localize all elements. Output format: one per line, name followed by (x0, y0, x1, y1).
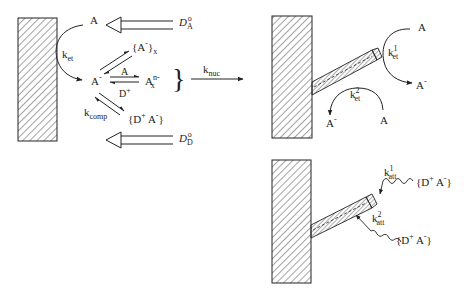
diffusion-coef-D: DDo (179, 133, 192, 144)
bottom-A-label: A (380, 115, 388, 126)
k-comp-label: kcomp (84, 107, 107, 118)
k-et-label: ket (62, 49, 73, 60)
brace: } (172, 65, 185, 93)
growing-fiber-bottom (311, 194, 377, 238)
complex-2-label: {D+ A-} (396, 235, 432, 246)
k-nuc-label: knuc (203, 64, 220, 75)
electrode-surface-left (18, 18, 57, 141)
bottom-A-minus-label: A- (326, 118, 337, 129)
electrode-surface-bottom-right (272, 160, 311, 283)
top-right-A-minus-label: A- (416, 80, 427, 91)
k-att2-label: k2att (372, 213, 385, 224)
k-et2-label: k2et (350, 89, 360, 100)
growing-fiber-top (312, 48, 382, 95)
k-et1-label: k1et (388, 47, 398, 58)
electrode-surface-top-right (272, 16, 312, 138)
equilibrium-oligomer (110, 77, 139, 82)
k-att1-label: k1att (384, 167, 397, 178)
species-A-label: A (90, 15, 98, 26)
reagent-D-label: D+ (119, 89, 131, 99)
diffusion-coef-A: DAo (179, 17, 192, 28)
complex-1-label: {D+ A-} (416, 177, 452, 188)
diffusion-arrow-A (106, 17, 173, 33)
complex-label: {D+ A-} (128, 114, 164, 125)
oligomer-label: An-x (145, 76, 155, 87)
diffusion-arrow-D (106, 132, 173, 148)
species-A-radical-anion: A- (91, 76, 102, 87)
reagent-A-label: A (121, 67, 128, 77)
aggregate-label: {A-}x (132, 42, 157, 53)
top-right-A-label: A (418, 22, 426, 33)
